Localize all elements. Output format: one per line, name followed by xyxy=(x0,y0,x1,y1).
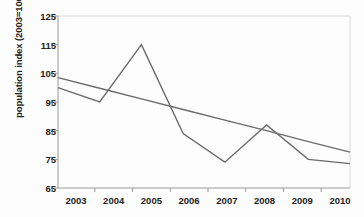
data-series-line xyxy=(58,45,350,164)
axis-lines xyxy=(58,16,350,188)
trend-line xyxy=(58,78,350,153)
x-axis-ticks xyxy=(95,188,321,192)
line-chart: population index (2003=100) 125 115 105 … xyxy=(0,0,364,217)
y-axis-ticks xyxy=(54,16,58,188)
plot-area xyxy=(0,0,364,217)
